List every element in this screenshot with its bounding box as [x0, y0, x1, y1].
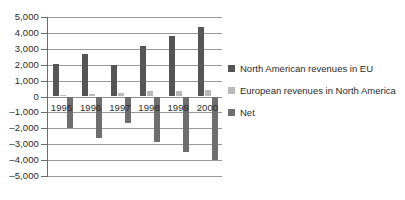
- bar-group: [198, 17, 218, 176]
- y-axis-tick: [41, 176, 48, 177]
- y-axis-tick-label: –4,000: [0, 155, 39, 165]
- bar: [198, 27, 204, 97]
- bar-group: [169, 17, 189, 176]
- bar-group: [111, 17, 131, 176]
- y-axis-tick-label: 5,000: [0, 12, 39, 22]
- legend-label: European revenues in North America: [240, 85, 396, 96]
- legend-label: North American revenues in EU: [240, 63, 373, 74]
- bar-group: [53, 17, 73, 176]
- bar-chart-figure: 5,0004,0003,0002,0001,0000–1,000–2,000–3…: [0, 0, 405, 200]
- bar-group: [82, 17, 102, 176]
- bar: [89, 94, 95, 96]
- legend-swatch-icon: [228, 109, 235, 116]
- y-axis-tick-label: 1,000: [0, 76, 39, 86]
- x-axis-tick-label: 1995: [47, 103, 76, 113]
- y-axis-tick-label: –5,000: [0, 171, 39, 181]
- x-axis-tick-label: 1997: [105, 103, 134, 113]
- x-axis-tick-label: 1998: [135, 103, 164, 113]
- bar: [147, 91, 153, 97]
- x-axis-tick-label: 2000: [193, 103, 222, 113]
- bar: [169, 36, 175, 96]
- bar: [118, 93, 124, 97]
- y-axis-tick-label: 3,000: [0, 44, 39, 54]
- y-axis-tick-label: –1,000: [0, 107, 39, 117]
- x-axis-tick-label: 1996: [76, 103, 105, 113]
- bar: [82, 54, 88, 96]
- legend-item[interactable]: European revenues in North America: [228, 85, 400, 96]
- bar: [205, 90, 211, 96]
- bar: [53, 64, 59, 97]
- x-axis-tick-label: 1999: [164, 103, 193, 113]
- y-axis-tick-label: –2,000: [0, 123, 39, 133]
- y-axis-tick-label: 2,000: [0, 60, 39, 70]
- legend-item[interactable]: North American revenues in EU: [228, 63, 400, 74]
- chart-legend: North American revenues in EUEuropean re…: [228, 63, 400, 129]
- y-axis-tick-label: 0: [0, 92, 39, 102]
- legend-label: Net: [240, 107, 255, 118]
- bar: [140, 46, 146, 97]
- bar: [111, 65, 117, 96]
- legend-swatch-icon: [228, 65, 235, 72]
- gridline: [47, 176, 222, 177]
- legend-swatch-icon: [228, 87, 235, 94]
- plot-area: [47, 17, 222, 176]
- bar: [176, 91, 182, 97]
- bar-group: [140, 17, 160, 176]
- y-axis-tick-label: 4,000: [0, 28, 39, 38]
- y-axis-tick-label: –3,000: [0, 139, 39, 149]
- bar: [60, 95, 66, 97]
- legend-item[interactable]: Net: [228, 107, 400, 118]
